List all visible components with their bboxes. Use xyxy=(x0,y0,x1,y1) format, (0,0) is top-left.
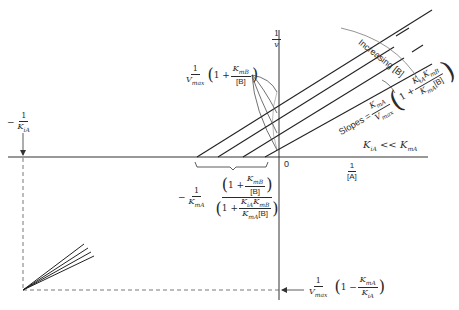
xi-num: 1 xyxy=(192,187,201,197)
yi-fnum-sub: mB xyxy=(239,68,249,75)
yi-fden: [B] xyxy=(234,77,248,86)
condition-label: KiA << KmA xyxy=(363,140,417,152)
line-2b xyxy=(396,28,409,36)
xi-bot-den-sub: mA xyxy=(248,213,258,220)
cond-op: << xyxy=(380,139,397,150)
bi-den-sub: max xyxy=(315,291,328,298)
xi-bot-num-sub2: mB xyxy=(259,200,269,207)
y-label-num: 1 xyxy=(272,30,281,40)
xi-top-one: 1 + xyxy=(228,181,244,190)
xi-bot-one: 1 + xyxy=(222,204,238,213)
li-num: 1 xyxy=(19,112,28,122)
bottom-intercept-label: 1Vmax (1 − KmAKiA) xyxy=(306,276,385,298)
li-prefix: − xyxy=(7,118,15,127)
xi-prefix: − xyxy=(178,193,186,202)
xi-top-num-sub: mB xyxy=(253,178,263,185)
cond-right-sub: mA xyxy=(407,145,417,152)
line-3b xyxy=(412,45,423,52)
origin-label: 0 xyxy=(284,160,289,169)
arrowhead-down xyxy=(20,150,26,156)
xi-den-sub: mA xyxy=(195,201,205,208)
y-label-den: v xyxy=(272,40,281,49)
y-intercept-label: 1Vmax ( 1 + KmB[B] ) xyxy=(183,64,258,86)
xi-bot-den2: [B] xyxy=(258,209,268,218)
replot-lines xyxy=(23,244,94,290)
yi-den-sub: max xyxy=(192,79,205,86)
x-intersect-brace xyxy=(195,162,268,170)
x-label-num: 1 xyxy=(348,162,356,172)
arrowhead-left xyxy=(281,287,287,293)
x-axis-label: 1[A] xyxy=(344,162,360,181)
xi-top-den: [B] xyxy=(248,187,262,196)
yi-close: ) xyxy=(252,67,258,83)
y-axis-label: 1v xyxy=(271,30,282,49)
yi-one: 1 + xyxy=(214,71,230,80)
bi-one: 1 − xyxy=(341,283,357,292)
cond-left-sub: iA xyxy=(370,145,376,152)
left-intercept-label: − 1KiA xyxy=(7,112,33,133)
bi-fnum-sub: mA xyxy=(366,279,376,286)
bi-num: 1 xyxy=(314,277,323,287)
yi-num: 1 xyxy=(191,65,200,75)
x-intersect-label: − 1KmA (1 + KmB[B]) (1 + KiAKmBKmA[B]) xyxy=(178,175,279,220)
x-label-den: [A] xyxy=(345,172,359,181)
bi-fden-sub: iA xyxy=(368,291,374,298)
li-den-sub: iA xyxy=(24,126,30,133)
